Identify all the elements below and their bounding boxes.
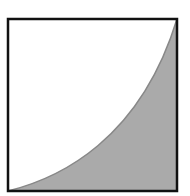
diagram-canvas: [0, 0, 190, 196]
shaded-region: [8, 19, 177, 191]
